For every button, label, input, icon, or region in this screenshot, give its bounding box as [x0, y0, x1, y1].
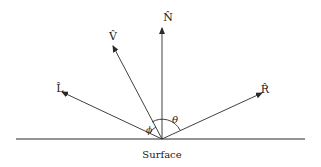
normal-label: N̂ — [163, 11, 173, 24]
light-label: L̂ — [56, 82, 64, 95]
view-label: V̂ — [108, 30, 118, 43]
view-vector — [113, 46, 162, 139]
phi-label: ϕ — [146, 125, 152, 135]
reflection-label: R̂ — [261, 83, 270, 96]
reflection-diagram: N̂ V̂ L̂ R̂ θ ϕ Surface — [0, 0, 321, 167]
surface-label: Surface — [142, 149, 181, 160]
theta-label: θ — [172, 114, 178, 125]
